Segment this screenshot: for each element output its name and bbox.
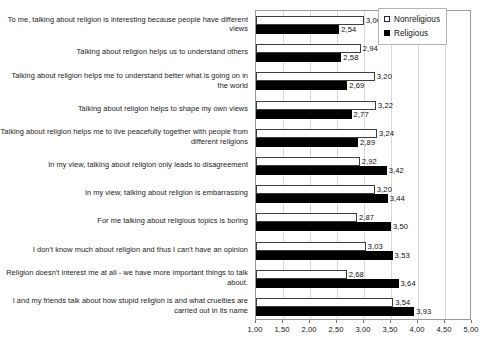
x-axis-tick — [390, 320, 391, 323]
x-axis-tick — [336, 320, 337, 323]
bar-nonreligious — [256, 16, 364, 25]
bar-religious — [256, 222, 391, 231]
bar-nonreligious — [256, 270, 347, 279]
bar-value-label: 2,77 — [354, 110, 369, 119]
bar-value-label: 3,24 — [379, 129, 394, 138]
bar-value-label: 3,03 — [368, 242, 383, 251]
x-axis-tick — [417, 320, 418, 323]
category-label: Talking about religion helps to shape my… — [0, 104, 248, 114]
x-axis-tick-label: 1,50 — [274, 325, 289, 334]
category-label: Talking about religion helps me to live … — [0, 127, 248, 146]
category-label: For me talking about religious topics is… — [0, 216, 248, 226]
bar-group: 2,923,42 — [256, 152, 470, 180]
bar-value-label: 2,58 — [343, 53, 358, 62]
bar-group: 3,222,77 — [256, 96, 470, 124]
category-label: In my view, talking about religion is em… — [0, 188, 248, 198]
bar-group: 2,683,64 — [256, 265, 470, 293]
legend-item[interactable]: Nonreligious — [384, 13, 440, 25]
bar-religious — [256, 138, 358, 147]
bar-value-label: 3,44 — [390, 194, 405, 203]
bar-value-label: 3,20 — [377, 185, 392, 194]
category-label: I and my friends talk about how stupid r… — [0, 296, 248, 315]
category-label: Religion doesn't interest me at all - we… — [0, 268, 248, 287]
legend-item-label: Nonreligious — [394, 15, 440, 24]
bar-religious — [256, 25, 339, 34]
bar-nonreligious — [256, 44, 361, 53]
bar-value-label: 2,54 — [341, 25, 356, 34]
x-axis-tick — [309, 320, 310, 323]
bar-religious — [256, 166, 387, 175]
x-axis-tick-label: 4,50 — [436, 325, 451, 334]
bar-value-label: 3,53 — [395, 251, 410, 260]
x-axis-tick — [363, 320, 364, 323]
x-axis: 1,001,502,002,503,003,504,004,505,00 — [255, 320, 471, 342]
bar-nonreligious — [256, 298, 393, 307]
bar-nonreligious — [256, 242, 366, 251]
bar-value-label: 3,42 — [389, 166, 404, 175]
x-axis-tick — [471, 320, 472, 323]
category-label: In my view, talking about religion only … — [0, 160, 248, 170]
category-label: Talking about religion helps me to under… — [0, 71, 248, 90]
bar-value-label: 2,92 — [362, 157, 377, 166]
bar-group: 3,242,89 — [256, 124, 470, 152]
bar-value-label: 3,93 — [416, 307, 431, 316]
bar-religious — [256, 307, 414, 316]
plot-area: 3,002,542,942,583,202,693,222,773,242,89… — [255, 10, 471, 320]
horizontal-bar-chart: To me, talking about religion is interes… — [0, 0, 498, 354]
category-label: I don't know much about religion and thu… — [0, 245, 248, 255]
hollow-square-icon — [384, 16, 390, 22]
bar-nonreligious — [256, 157, 360, 166]
filled-square-icon — [384, 30, 390, 36]
bar-group: 3,033,53 — [256, 236, 470, 264]
x-axis-tick — [444, 320, 445, 323]
bar-nonreligious — [256, 101, 376, 110]
bar-value-label: 2,87 — [359, 213, 374, 222]
x-axis-tick-label: 2,00 — [301, 325, 316, 334]
x-axis-tick-label: 4,00 — [409, 325, 424, 334]
bar-group: 3,543,93 — [256, 293, 470, 321]
bar-group: 2,873,50 — [256, 208, 470, 236]
bar-value-label: 3,64 — [401, 279, 416, 288]
x-axis-tick-label: 1,00 — [247, 325, 262, 334]
bar-religious — [256, 110, 352, 119]
bar-nonreligious — [256, 129, 377, 138]
bar-value-label: 3,22 — [378, 101, 393, 110]
bar-value-label: 3,54 — [395, 298, 410, 307]
x-axis-tick — [255, 320, 256, 323]
category-label: To me, talking about religion is interes… — [0, 15, 248, 34]
x-axis-tick — [282, 320, 283, 323]
bar-value-label: 2,68 — [349, 270, 364, 279]
legend-item-label: Religious — [394, 29, 428, 38]
bar-value-label: 3,20 — [377, 72, 392, 81]
bar-value-label: 2,94 — [363, 44, 378, 53]
bar-religious — [256, 81, 347, 90]
x-axis-tick-label: 5,00 — [463, 325, 478, 334]
x-axis-tick-label: 3,50 — [382, 325, 397, 334]
category-axis-labels: To me, talking about religion is interes… — [0, 10, 252, 320]
chart-legend: NonreligiousReligious — [378, 8, 447, 45]
bar-nonreligious — [256, 185, 375, 194]
bar-religious — [256, 53, 341, 62]
bar-nonreligious — [256, 213, 357, 222]
bar-nonreligious — [256, 72, 375, 81]
bar-value-label: 2,69 — [349, 81, 364, 90]
bar-group: 3,202,69 — [256, 67, 470, 95]
x-axis-tick-label: 3,00 — [355, 325, 370, 334]
bar-religious — [256, 279, 399, 288]
legend-item[interactable]: Religious — [384, 27, 440, 39]
bar-value-label: 3,50 — [393, 222, 408, 231]
x-axis-tick-label: 2,50 — [328, 325, 343, 334]
bar-value-label: 2,89 — [360, 138, 375, 147]
bar-religious — [256, 251, 393, 260]
bar-religious — [256, 194, 388, 203]
category-label: Talking about religion helps us to under… — [0, 47, 248, 57]
bar-group: 3,203,44 — [256, 180, 470, 208]
